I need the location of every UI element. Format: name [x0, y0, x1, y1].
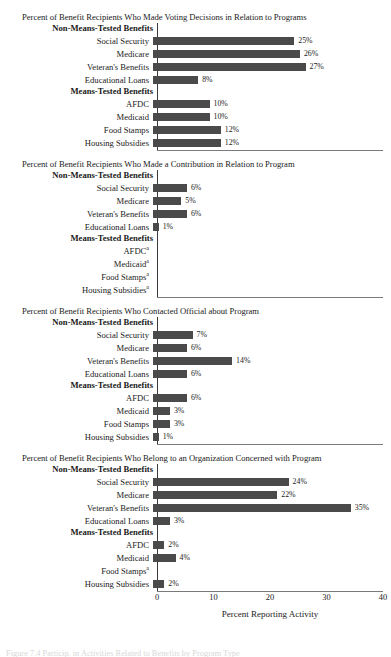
- bar-value-label: 10%: [214, 98, 228, 109]
- bar: [153, 478, 289, 486]
- category-label-text: Veteran's Benefits: [87, 209, 149, 219]
- bar-zone: 7%: [153, 328, 391, 341]
- bar: [153, 504, 351, 512]
- bar-row: AFDCa: [0, 244, 391, 257]
- bar-row: AFDC2%: [0, 538, 391, 551]
- category-label-text: Housing Subsidies: [85, 432, 149, 442]
- bar: [153, 541, 164, 549]
- category-label-text: Social Security: [97, 330, 149, 340]
- bar-value-label: 4%: [180, 552, 190, 563]
- bar-zone: 26%: [153, 47, 391, 60]
- category-label: Medicaid: [0, 406, 153, 416]
- bar-zone: 12%: [153, 136, 391, 149]
- bar-zone: 35%: [153, 501, 391, 514]
- category-label-text: Veteran's Benefits: [87, 503, 149, 513]
- category-label: Housing Subsidies: [0, 432, 153, 442]
- bar: [153, 491, 277, 499]
- bar-zone: [153, 564, 391, 577]
- bar-zone: 10%: [153, 110, 391, 123]
- category-label-text: Housing Subsidies: [85, 138, 149, 148]
- bar: [153, 223, 159, 231]
- category-label: Medicare: [0, 490, 153, 500]
- bar: [153, 407, 170, 415]
- category-label: Social Security: [0, 183, 153, 193]
- category-label: Veteran's Benefits: [0, 503, 153, 513]
- category-label-text: Veteran's Benefits: [87, 62, 149, 72]
- bar-row: Social Security7%: [0, 328, 391, 341]
- figure-caption: Figure 7.4 Particip. in Activities Relat…: [6, 649, 391, 657]
- bar: [153, 433, 159, 441]
- category-label-text: Medicaid: [117, 553, 149, 563]
- bar-value-label: 6%: [191, 342, 201, 353]
- bar-row: Medicaid10%: [0, 110, 391, 123]
- bar-value-label: 3%: [174, 515, 184, 526]
- bar-row: Veteran's Benefits6%: [0, 207, 391, 220]
- chart-panel: Percent of Benefit Recipients Who Belong…: [0, 445, 391, 621]
- bar-value-label: 6%: [191, 392, 201, 403]
- x-tick-label: 40: [379, 592, 387, 604]
- bar-value-label: 22%: [281, 489, 295, 500]
- category-label-text: Food Stamps: [104, 125, 149, 135]
- footnote-marker: a: [146, 565, 149, 571]
- bar: [153, 331, 193, 339]
- bar-zone: 5%: [153, 194, 391, 207]
- panel-title: Percent of Benefit Recipients Who Belong…: [0, 453, 391, 464]
- x-axis-ticks: 010203040: [157, 592, 383, 605]
- category-label-text: Medicare: [117, 490, 149, 500]
- bar: [153, 126, 221, 134]
- category-label: Social Security: [0, 330, 153, 340]
- bar-zone: 6%: [153, 367, 391, 380]
- category-label: Medicaid: [0, 112, 153, 122]
- category-label: Veteran's Benefits: [0, 356, 153, 366]
- bar-row: Food Stampsa: [0, 564, 391, 577]
- plot-area: Non-Means-Tested BenefitsSocial Security…: [0, 23, 391, 151]
- bar: [153, 554, 176, 562]
- category-label-text: Educational Loans: [85, 516, 149, 526]
- bar-zone: 8%: [153, 73, 391, 86]
- footnote-marker: a: [146, 284, 149, 290]
- bar-row: Medicare6%: [0, 341, 391, 354]
- bar-value-label: 12%: [225, 124, 239, 135]
- bar-zone: 24%: [153, 475, 391, 488]
- footnote-marker: a: [146, 258, 149, 264]
- bar-value-label: 2%: [168, 539, 178, 550]
- bar-zone: 6%: [153, 391, 391, 404]
- bar-zone: [153, 244, 391, 257]
- bar-row: Food Stamps3%: [0, 417, 391, 430]
- bar-zone: 1%: [153, 220, 391, 233]
- bar: [153, 344, 187, 352]
- bar-value-label: 14%: [236, 355, 250, 366]
- bar: [153, 184, 187, 192]
- bar-value-label: 3%: [174, 405, 184, 416]
- bar-row: Medicare26%: [0, 47, 391, 60]
- panel-title: Percent of Benefit Recipients Who Made a…: [0, 159, 391, 170]
- bar-value-label: 6%: [191, 368, 201, 379]
- bar-row: Housing Subsidies2%: [0, 577, 391, 590]
- bar-row: Housing Subsidies12%: [0, 136, 391, 149]
- bar-zone: [153, 257, 391, 270]
- category-label-text: Housing Subsidies: [82, 285, 146, 295]
- bar: [153, 63, 306, 71]
- bar: [153, 370, 187, 378]
- bar: [153, 357, 232, 365]
- bar-zone: 3%: [153, 514, 391, 527]
- bar-zone: 4%: [153, 551, 391, 564]
- bar-row: Veteran's Benefits35%: [0, 501, 391, 514]
- category-label: Food Stamps: [0, 125, 153, 135]
- category-label: Food Stamps: [0, 419, 153, 429]
- bar-row: Veteran's Benefits27%: [0, 60, 391, 73]
- bar-zone: 6%: [153, 341, 391, 354]
- category-label-text: Veteran's Benefits: [87, 356, 149, 366]
- bar-row: Educational Loans8%: [0, 73, 391, 86]
- x-tick-label: 20: [266, 592, 274, 604]
- bar-value-label: 10%: [214, 111, 228, 122]
- category-label: Veteran's Benefits: [0, 62, 153, 72]
- chart-panel: Percent of Benefit Recipients Who Made a…: [0, 151, 391, 298]
- bar-value-label: 25%: [298, 35, 312, 46]
- category-label-text: Medicare: [117, 196, 149, 206]
- category-label-text: Food Stamps: [101, 566, 146, 576]
- bar-zone: 3%: [153, 404, 391, 417]
- bar-zone: 2%: [153, 538, 391, 551]
- plot-area: Non-Means-Tested BenefitsSocial Security…: [0, 170, 391, 298]
- category-label-text: Food Stamps: [104, 419, 149, 429]
